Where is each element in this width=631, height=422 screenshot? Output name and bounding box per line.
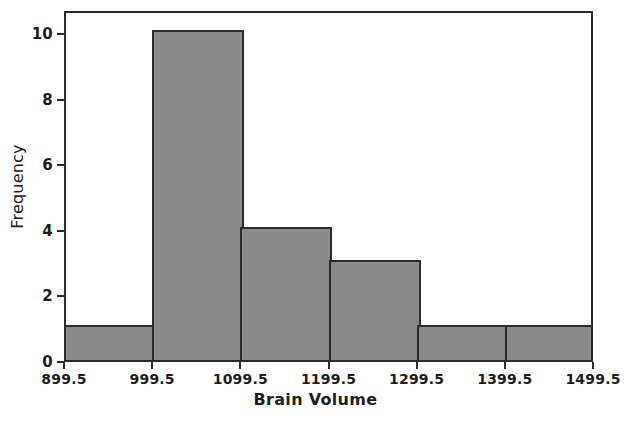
y-axis-tick-mark: [57, 164, 64, 166]
histogram-figure: Frequency 0246810 899.5999.51099.51199.5…: [0, 0, 631, 422]
y-axis-tick-mark: [57, 99, 64, 101]
x-axis-tick-label: 1499.5: [565, 370, 620, 388]
y-axis-tick-label: 4: [42, 221, 53, 241]
x-axis-tick-label: 899.5: [41, 370, 86, 388]
y-axis-tick-label: 2: [42, 286, 53, 306]
histogram-bar: [505, 325, 593, 360]
x-axis-tick-mark: [504, 362, 506, 369]
x-axis-tick-label: 1199.5: [301, 370, 356, 388]
y-axis-tick-label: 6: [42, 155, 53, 175]
x-axis-tick-mark: [239, 362, 241, 369]
y-axis-tick-mark: [57, 295, 64, 297]
y-axis-tick-label: 8: [42, 90, 53, 110]
y-axis-tick-mark: [57, 230, 64, 232]
x-axis-tick-label: 1399.5: [477, 370, 532, 388]
x-axis-title: Brain Volume: [0, 390, 631, 409]
x-axis-tick-mark: [151, 362, 153, 369]
histogram-bar: [329, 260, 421, 360]
plot-area: [64, 11, 593, 362]
y-axis-tick-label: 10: [32, 24, 53, 44]
x-axis-tick-mark: [416, 362, 418, 369]
y-axis-tick-mark: [57, 33, 64, 35]
x-axis-tick-label: 1299.5: [389, 370, 444, 388]
histogram-bar: [240, 227, 332, 360]
x-axis-tick-label: 1099.5: [213, 370, 268, 388]
x-axis-tick-label: 999.5: [130, 370, 175, 388]
histogram-bar: [64, 325, 156, 360]
x-axis-tick-mark: [592, 362, 594, 369]
histogram-bar: [417, 325, 509, 360]
x-axis-tick-mark: [328, 362, 330, 369]
histogram-bar: [152, 30, 244, 360]
y-axis: 0246810: [0, 0, 64, 422]
x-axis-tick-mark: [63, 362, 65, 369]
